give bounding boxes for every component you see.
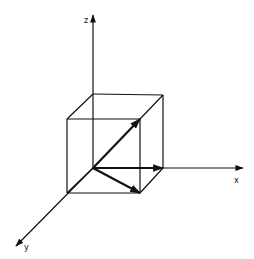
vector-y-arrow [93,168,140,193]
coordinate-diagram: zxy [0,0,254,259]
cube-edge [140,95,163,119]
vectors-group [93,119,163,193]
z-axis-label: z [84,16,88,25]
axis-labels: zxy [24,16,239,252]
cube-edge [67,168,93,193]
y-axis-label: y [24,243,29,252]
vector-diagonal-arrow [93,119,140,168]
cube-edge [140,168,163,193]
cube-edge [93,94,163,95]
x-axis-label: x [234,176,239,185]
cube-edge [67,94,93,119]
